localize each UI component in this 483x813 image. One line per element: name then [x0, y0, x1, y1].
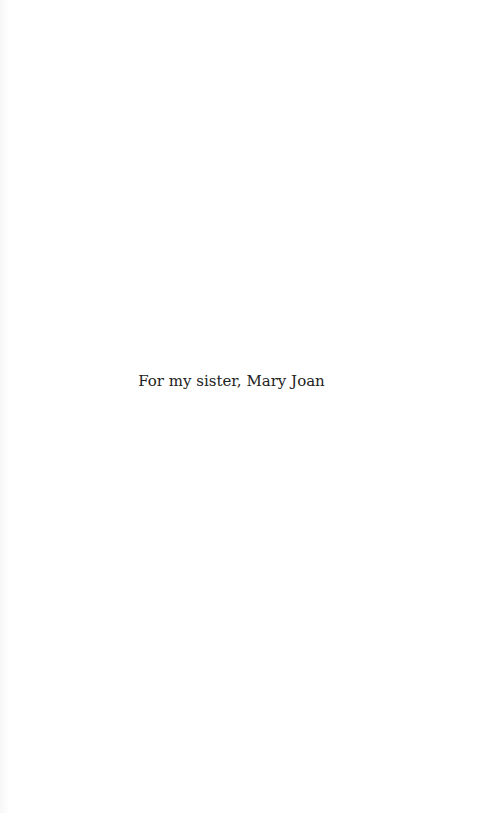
dedication-text: For my sister, Mary Joan [0, 372, 463, 390]
book-page: For my sister, Mary Joan [0, 0, 483, 813]
